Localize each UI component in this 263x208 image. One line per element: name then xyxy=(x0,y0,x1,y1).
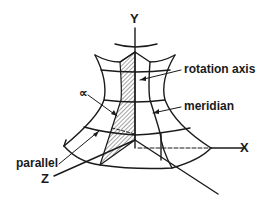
surface-of-revolution-figure: Y X Z rotation axis meridian parallel ∝ xyxy=(0,0,263,208)
y-axis-label: Y xyxy=(130,12,139,25)
z-axis-label: Z xyxy=(41,172,49,185)
top-arc xyxy=(115,44,157,47)
parallel-lower-right xyxy=(135,128,190,135)
rotation-axis-label: rotation axis xyxy=(184,63,255,75)
angle-arrowhead xyxy=(111,110,117,116)
angle-label: ∝ xyxy=(79,87,88,99)
parallel-label: parallel xyxy=(16,157,58,169)
base-front-arc xyxy=(64,146,211,169)
meridian-label: meridian xyxy=(184,100,234,112)
parallel-arrowhead xyxy=(93,131,99,137)
outer-left-profile xyxy=(64,55,105,146)
x-axis-label: X xyxy=(240,141,249,154)
